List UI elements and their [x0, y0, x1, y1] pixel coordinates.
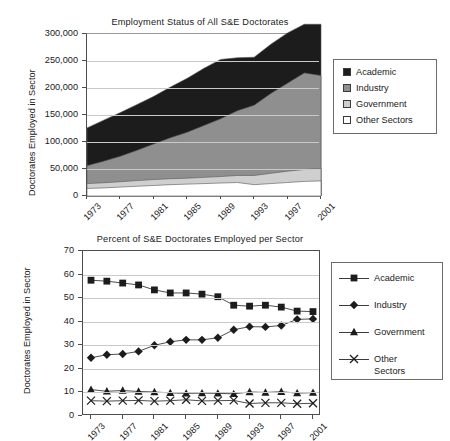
- x-tick-label: 1973: [58, 421, 107, 441]
- line-chart-figure: Percent of S&E Doctorates Employed per S…: [0, 222, 450, 441]
- legend-line-chart: AcademicIndustryGovernmentOtherSectors: [331, 262, 443, 380]
- data-point-marker: [277, 388, 285, 395]
- stacked-area-chart-figure: Employment Status of All S&E Doctorates …: [0, 0, 450, 222]
- legend-item-academic[interactable]: Academic: [339, 272, 414, 284]
- data-point-marker: [245, 322, 253, 330]
- y-tick-label: 10: [0, 386, 74, 396]
- data-point-marker: [230, 302, 237, 309]
- legend-symbol: [347, 271, 361, 285]
- legend-label: Other: [374, 354, 397, 364]
- y-tick-label: 40: [0, 316, 74, 326]
- data-point-marker: [88, 277, 95, 284]
- data-point-marker: [134, 347, 142, 355]
- data-point-marker: [151, 286, 158, 293]
- legend-label: Industry: [356, 83, 389, 93]
- data-point-marker: [87, 354, 95, 362]
- legend-marker-square-icon: [339, 272, 369, 284]
- line-series-group: [83, 251, 321, 416]
- chart-title-employment-status: Employment Status of All S&E Doctorates: [60, 17, 340, 27]
- data-point-marker: [135, 282, 142, 289]
- legend-label: Academic: [356, 67, 396, 77]
- legend-label: Government: [356, 99, 407, 109]
- plot-area-stacked-area: [86, 33, 320, 195]
- gridline: [83, 345, 319, 346]
- y-tick-label: 0: [0, 190, 78, 200]
- data-point-marker: [351, 275, 358, 282]
- data-point-marker: [198, 336, 206, 344]
- data-point-marker: [167, 290, 174, 297]
- legend-item-industry[interactable]: Industry: [343, 83, 389, 93]
- line-series-academic: [88, 277, 317, 315]
- data-point-marker: [183, 290, 190, 297]
- gridline: [83, 275, 319, 276]
- data-point-marker: [119, 280, 126, 287]
- legend-swatch-icon: [343, 116, 351, 124]
- legend-stacked-area: AcademicIndustryGovernmentOther Sectors: [333, 59, 437, 134]
- legend-label: Industry: [374, 300, 407, 310]
- line-series-government: [87, 385, 317, 397]
- legend-item-industry[interactable]: Industry: [339, 299, 407, 311]
- legend-marker-triangle-icon: [339, 326, 369, 338]
- data-point-marker: [199, 291, 206, 298]
- legend-swatch-icon: [343, 100, 351, 108]
- y-tick-label: 20: [0, 363, 74, 373]
- y-tick-label: 60: [0, 269, 74, 279]
- legend-item-other[interactable]: Other: [339, 353, 397, 365]
- legend-label: Other Sectors: [356, 115, 413, 125]
- data-point-marker: [350, 328, 358, 335]
- legend-label: Academic: [374, 273, 414, 283]
- data-point-marker: [214, 334, 222, 342]
- y-tick-label: 150,000: [0, 109, 78, 119]
- line-series-other-sectors: [87, 396, 317, 408]
- data-point-marker: [350, 301, 358, 309]
- y-axis-label-bottom: Doctorates Employed in Sector: [22, 267, 32, 394]
- legend-marker-diamond-icon: [339, 299, 369, 311]
- gridline: [87, 142, 319, 143]
- gridline: [83, 322, 319, 323]
- data-point-marker: [119, 350, 127, 358]
- legend-marker-cross-icon: [339, 353, 369, 365]
- legend-item-other-sectors[interactable]: Other Sectors: [343, 115, 413, 125]
- legend-label-line2: Sectors: [374, 366, 405, 376]
- y-tick-label: 70: [0, 245, 74, 255]
- gridline: [87, 88, 319, 89]
- y-tick-label: 200,000: [0, 82, 78, 92]
- y-tick-label: 50: [0, 292, 74, 302]
- legend-item-government[interactable]: Government: [339, 326, 425, 338]
- y-tick-mark: [78, 415, 82, 416]
- data-point-marker: [261, 323, 269, 331]
- plot-area-line-chart: [82, 250, 320, 415]
- data-point-marker: [310, 308, 317, 315]
- legend-item-government[interactable]: Government: [343, 99, 407, 109]
- data-point-marker: [294, 308, 301, 315]
- gridline: [87, 115, 319, 116]
- gridline: [83, 298, 319, 299]
- gridline: [83, 392, 319, 393]
- data-point-marker: [103, 351, 111, 359]
- legend-symbol: [347, 352, 361, 366]
- chart-title-percent-employed: Percent of S&E Doctorates Employed per S…: [55, 234, 345, 244]
- data-point-marker: [230, 326, 238, 334]
- data-point-marker: [262, 302, 269, 309]
- data-point-marker: [103, 278, 110, 285]
- gridline: [83, 369, 319, 370]
- data-point-marker: [350, 355, 358, 363]
- legend-item-academic[interactable]: Academic: [343, 67, 396, 77]
- gridline: [87, 61, 319, 62]
- data-point-marker: [278, 304, 285, 311]
- legend-swatch-icon: [343, 68, 351, 76]
- gridline: [87, 169, 319, 170]
- legend-symbol: [347, 298, 361, 312]
- y-tick-label: 30: [0, 339, 74, 349]
- legend-symbol: [347, 325, 361, 339]
- y-tick-label: 300,000: [0, 28, 78, 38]
- data-point-marker: [182, 336, 190, 344]
- y-tick-label: 50,000: [0, 163, 78, 173]
- legend-label: Government: [374, 327, 425, 337]
- y-tick-label: 100,000: [0, 136, 78, 146]
- legend-swatch-icon: [343, 84, 351, 92]
- y-tick-label: 0: [0, 410, 74, 420]
- data-point-marker: [246, 303, 253, 310]
- y-tick-label: 250,000: [0, 55, 78, 65]
